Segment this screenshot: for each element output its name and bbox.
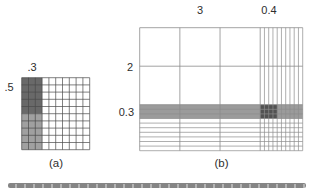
figure-a-caption: (a) [22, 157, 90, 169]
figure-b-caption: (b) [140, 157, 303, 169]
figure-b-left-label-whole: 2 [113, 61, 133, 73]
figure-a-left-label: .5 [1, 81, 17, 93]
figure-a-grid [21, 77, 91, 151]
figure-b-left-label-fraction: 0.3 [104, 106, 134, 118]
figure-panel: .3 .5 (a) 3 0.4 2 0.3 (b) [0, 0, 311, 191]
figure-b-top-label-fraction: 0.4 [249, 4, 289, 16]
figure-b-grid [139, 27, 304, 152]
separator-rule [8, 183, 306, 188]
figure-a-top-label: .3 [22, 61, 42, 73]
figure-b-top-label-whole: 3 [140, 4, 260, 16]
